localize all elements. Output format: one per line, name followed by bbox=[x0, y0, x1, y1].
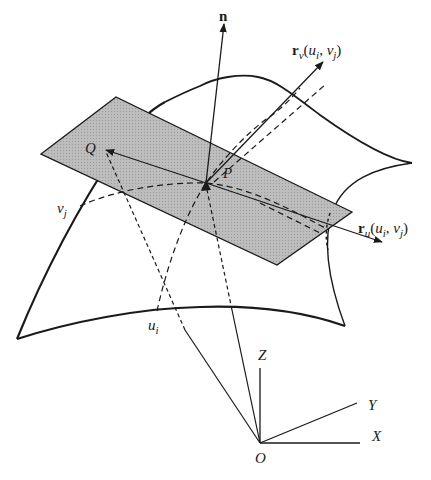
label-origin-O: O bbox=[255, 450, 266, 466]
surface-diagram: n rv(ui, vj) ru(ui, vj) Q P vj ui Z Y X … bbox=[0, 0, 431, 480]
label-Q: Q bbox=[85, 140, 96, 156]
label-P: P bbox=[222, 165, 232, 181]
label-n: n bbox=[219, 8, 228, 24]
label-axis-Z: Z bbox=[258, 347, 267, 363]
tangent-plane bbox=[41, 97, 352, 265]
label-axis-X: X bbox=[371, 428, 382, 444]
label-rv: rv(ui, vj) bbox=[292, 42, 341, 61]
position-vector-Q bbox=[185, 330, 260, 443]
axis-Y-line bbox=[260, 403, 357, 443]
position-vector-P bbox=[232, 310, 260, 443]
coordinate-axes bbox=[260, 368, 360, 443]
label-axis-Y: Y bbox=[368, 397, 378, 413]
label-vj: vj bbox=[57, 200, 67, 219]
surface-right-edge bbox=[327, 163, 412, 326]
label-ui: ui bbox=[148, 317, 159, 336]
label-ru: ru(ui, vj) bbox=[358, 220, 408, 239]
surface-bottom-edge bbox=[17, 307, 345, 339]
